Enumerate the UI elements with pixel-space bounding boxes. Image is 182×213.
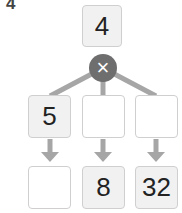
multiply-icon: × [89,54,117,82]
bottom-box-1-input[interactable] [28,166,71,209]
middle-box-2-input[interactable] [82,95,125,138]
middle-box-1: 5 [28,95,71,138]
bottom-box-3: 32 [135,166,178,209]
top-number-box: 4 [82,5,122,47]
arrow-down-icons [41,152,165,162]
middle-box-3-input[interactable] [135,95,178,138]
bottom-box-2: 8 [82,166,125,209]
